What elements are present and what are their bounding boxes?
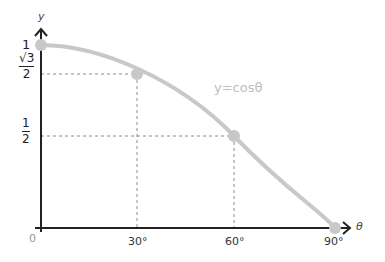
y-axis-label: y <box>38 10 45 23</box>
x-axis-label: θ <box>356 220 363 233</box>
point-60 <box>228 130 240 142</box>
y-tick-half-denominator: 2 <box>22 133 30 146</box>
point-0 <box>35 39 47 51</box>
y-tick-sqrt3-denominator: 2 <box>23 68 31 81</box>
guide-lines <box>41 74 234 228</box>
point-30 <box>131 68 143 80</box>
x-tick-30: 30° <box>128 235 148 248</box>
chart-canvas <box>0 0 385 262</box>
axes <box>35 29 350 234</box>
y-tick-half-numerator: 1 <box>22 117 30 130</box>
origin-label: 0 <box>29 232 36 245</box>
x-tick-60: 60° <box>225 235 245 248</box>
y-tick-sqrt3-numerator: √3 <box>19 52 34 65</box>
x-tick-90: 90° <box>324 235 344 248</box>
point-90 <box>329 222 341 234</box>
y-tick-1: 1 <box>22 37 30 52</box>
curve-label: y=cosθ <box>214 80 262 95</box>
y-tick-half: 1 2 <box>22 117 30 146</box>
y-tick-sqrt3-over-2: √3 2 <box>19 52 34 81</box>
